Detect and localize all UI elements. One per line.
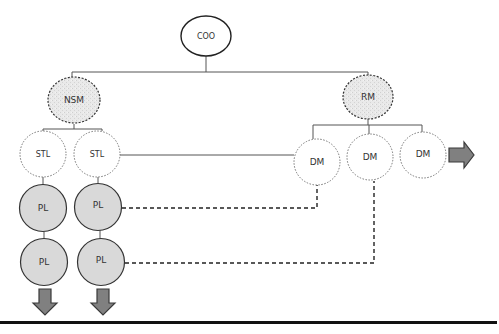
node-nsm-label: NSM — [64, 95, 84, 105]
dashed-link-pl-2a-to-dm-1 — [122, 185, 317, 208]
node-dm-2-label: DM — [363, 152, 378, 162]
node-dm-3-label: DM — [416, 149, 431, 159]
node-coo[interactable]: COO — [181, 16, 231, 56]
node-pl-1b-label: PL — [39, 257, 49, 267]
node-pl-2b-label: PL — [96, 255, 106, 265]
node-stl-2[interactable]: STL — [74, 131, 120, 177]
baseline-divider — [0, 321, 497, 324]
node-pl-2b[interactable]: PL — [78, 239, 125, 286]
node-coo-label: COO — [197, 32, 215, 41]
node-dm-2[interactable]: DM — [347, 134, 393, 180]
node-stl-1[interactable]: STL — [20, 131, 66, 177]
node-pl-2a[interactable]: PL — [75, 184, 122, 231]
org-chart-canvas: COO NSM RM STL STL DM DM DM PL PL — [0, 0, 499, 334]
node-stl-1-label: STL — [36, 150, 51, 159]
arrow-right-icon — [449, 142, 474, 168]
node-dm-1-label: DM — [310, 157, 325, 167]
dashed-link-pl-2b-to-dm-2 — [125, 181, 374, 263]
node-pl-2a-label: PL — [93, 200, 103, 210]
node-stl-2-label: STL — [90, 150, 105, 159]
node-pl-1a-label: PL — [38, 203, 48, 213]
dashed-links — [122, 181, 374, 263]
node-dm-1[interactable]: DM — [294, 139, 340, 185]
node-rm[interactable]: RM — [343, 75, 393, 119]
node-rm-label: RM — [361, 92, 375, 102]
node-pl-1b[interactable]: PL — [21, 239, 68, 286]
node-pl-1a[interactable]: PL — [20, 185, 67, 232]
arrow-down-icon — [91, 289, 115, 315]
node-nsm[interactable]: NSM — [48, 77, 100, 123]
node-dm-3[interactable]: DM — [400, 132, 446, 178]
arrow-down-icon — [33, 289, 57, 315]
